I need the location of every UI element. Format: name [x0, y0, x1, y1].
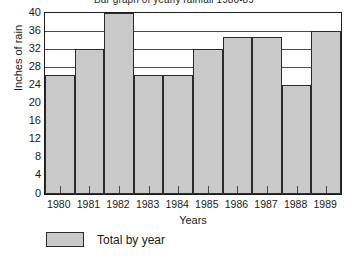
y-tick-label-8: 8: [5, 151, 41, 162]
x-tick-label-1989: 1989: [310, 198, 340, 210]
legend-swatch-total-by-year: [46, 232, 84, 247]
x-tick-label-1984: 1984: [162, 198, 192, 210]
y-tick-label-36: 36: [5, 25, 41, 36]
x-axis-tick-labels: 1980198119821983198419851986198719881989: [44, 198, 342, 212]
plot-area: [44, 12, 342, 195]
y-tick-label-40: 40: [5, 7, 41, 18]
x-tick-mark-1981: [89, 186, 90, 193]
x-tick-mark-1983: [149, 186, 150, 193]
y-tick-label-16: 16: [5, 115, 41, 126]
bar-1984: [163, 75, 193, 194]
x-tick-mark-1989: [326, 186, 327, 193]
bar-1980: [45, 75, 75, 194]
x-tick-label-1986: 1986: [222, 198, 252, 210]
gridline-36: [45, 31, 341, 32]
x-tick-mark-1986: [237, 186, 238, 193]
x-tick-mark-1980: [60, 186, 61, 193]
x-axis-title: Years: [44, 214, 342, 226]
y-axis-tick-labels: 0481216202428323640: [0, 0, 41, 259]
bar-1983: [134, 75, 164, 194]
legend-label-total-by-year: Total by year: [97, 233, 165, 247]
y-tick-label-32: 32: [5, 43, 41, 54]
x-tick-label-1982: 1982: [103, 198, 133, 210]
y-tick-label-28: 28: [5, 61, 41, 72]
x-tick-mark-1988: [297, 186, 298, 193]
y-tick-label-12: 12: [5, 133, 41, 144]
bar-1989: [311, 31, 341, 194]
y-tick-label-4: 4: [5, 169, 41, 180]
bar-chart: Bar graph of yearly rainfall 1980-89 Inc…: [0, 0, 348, 259]
bar-1985: [193, 49, 223, 194]
bar-1987: [252, 37, 282, 194]
x-tick-mark-1982: [119, 186, 120, 193]
x-tick-label-1985: 1985: [192, 198, 222, 210]
x-tick-mark-1987: [267, 186, 268, 193]
bar-1982: [104, 13, 134, 194]
x-tick-label-1980: 1980: [44, 198, 74, 210]
x-tick-mark-1985: [208, 186, 209, 193]
chart-title: Bar graph of yearly rainfall 1980-89: [0, 0, 348, 5]
x-tick-mark-1984: [178, 186, 179, 193]
bar-1981: [75, 49, 105, 194]
y-tick-label-20: 20: [5, 97, 41, 108]
bar-1986: [223, 37, 253, 194]
x-tick-label-1981: 1981: [74, 198, 104, 210]
bar-1988: [282, 85, 312, 195]
x-tick-label-1987: 1987: [251, 198, 281, 210]
y-tick-label-0: 0: [5, 188, 41, 199]
legend: Total by year: [46, 232, 165, 247]
x-tick-label-1988: 1988: [281, 198, 311, 210]
x-tick-label-1983: 1983: [133, 198, 163, 210]
y-tick-label-24: 24: [5, 79, 41, 90]
